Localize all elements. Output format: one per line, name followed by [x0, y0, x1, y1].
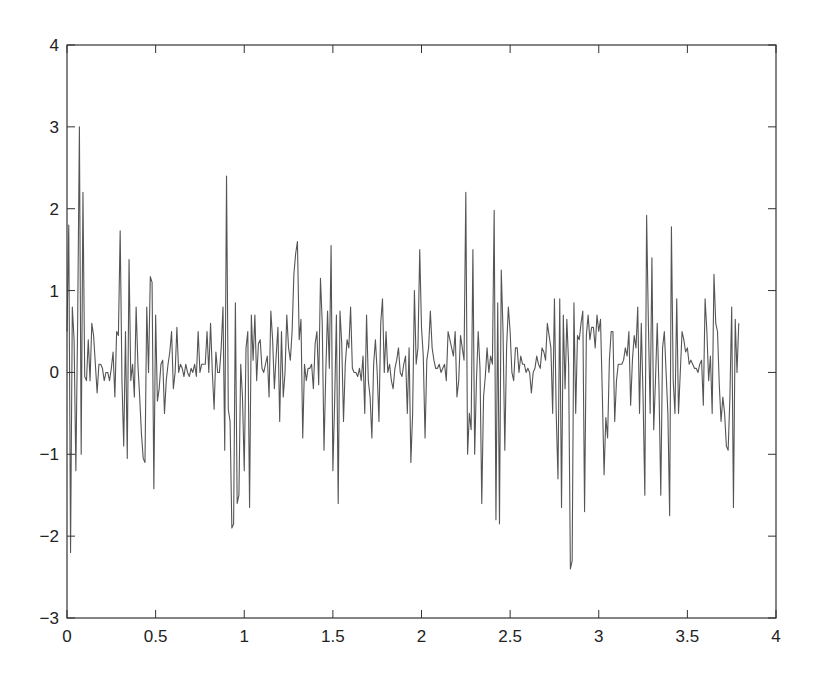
- y-tick-label: −1: [40, 445, 59, 464]
- x-tick-label: 0: [62, 627, 71, 646]
- x-tick-label: 1: [240, 627, 249, 646]
- y-tick-label: −3: [40, 609, 59, 628]
- x-tick-label: 4: [771, 627, 780, 646]
- x-tick-label: 3.5: [676, 627, 700, 646]
- line-chart: 00.511.522.533.54 43210−1−2−3: [0, 0, 817, 677]
- y-tick-label: −2: [40, 527, 59, 546]
- y-tick-label: 0: [50, 363, 59, 382]
- y-tick-label: 1: [50, 282, 59, 301]
- x-tick-label: 2: [417, 627, 426, 646]
- x-tick-label: 3: [594, 627, 603, 646]
- x-tick-label: 1.5: [321, 627, 345, 646]
- x-tick-label: 2.5: [498, 627, 522, 646]
- y-tick-label: 4: [50, 36, 59, 55]
- y-tick-label: 2: [50, 200, 59, 219]
- y-tick-label: 3: [50, 118, 59, 137]
- x-tick-label: 0.5: [144, 627, 168, 646]
